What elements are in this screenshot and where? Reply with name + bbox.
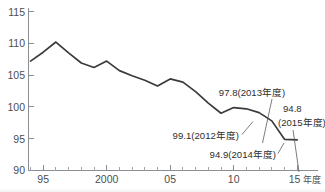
x-tick-label-10: 10 [228,173,240,185]
y-tick-label-95: 95 [13,133,25,145]
annotation-2015: 94.8 (2015年度) [278,103,325,172]
x-axis-unit-label: 年度 [303,174,321,185]
y-axis-ticks [29,12,34,171]
x-tick-label-95: 95 [37,173,49,185]
annotation-2015-label-line1: 94.8 [283,103,302,114]
x-tick-label-15: 15 [289,173,301,185]
annotation-2012: 99.1(2012年度) [173,122,253,142]
y-tick-label-100: 100 [7,101,25,113]
y-tick-label-105: 105 [7,69,25,81]
annotation-2015-label-line2: (2015年度) [278,117,325,128]
chart-canvas: 115 110 105 100 95 90 [0,0,325,192]
x-tick-label-05: 05 [164,173,176,185]
x-tick-label-2000: 2000 [95,173,119,185]
line-chart: 115 110 105 100 95 90 [0,0,325,192]
y-tick-label-90: 90 [13,164,25,176]
annotation-2014: 94.9(2014年度) [210,143,284,160]
y-tick-label-110: 110 [8,37,25,49]
annotation-2013-label: 97.8(2013年度) [219,87,285,98]
annotation-2012-label: 99.1(2012年度) [173,130,239,141]
x-axis-minor-ticks [31,167,298,171]
y-tick-label-115: 115 [8,6,25,18]
annotation-2014-label: 94.9(2014年度) [210,149,276,160]
